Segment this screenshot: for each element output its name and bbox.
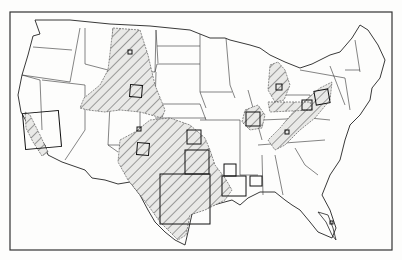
- us-map-svg: [0, 0, 402, 260]
- michigan-basin: [268, 62, 290, 102]
- us-map-figure: [0, 0, 402, 260]
- great-plains-region: [80, 28, 165, 118]
- south-central-region: [118, 118, 232, 240]
